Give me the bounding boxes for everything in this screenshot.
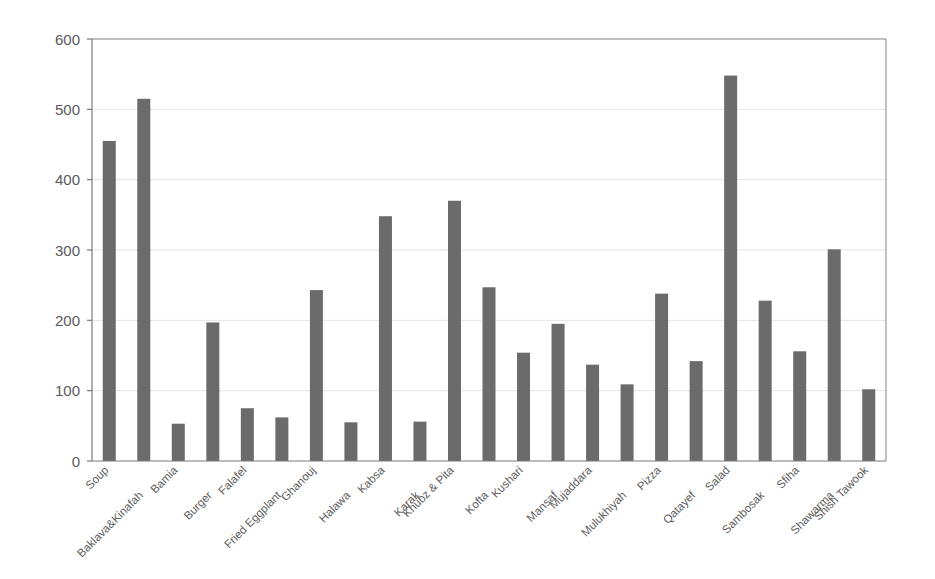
y-axis-tick-label: 300 [55,242,80,259]
y-axis-tick-label: 500 [55,101,80,118]
bar [206,322,219,461]
bar [552,324,565,461]
bar [586,365,599,461]
bar [759,301,772,461]
bar [655,294,668,461]
bar [275,417,288,461]
bar [310,290,323,461]
bar [862,389,875,461]
bar [413,422,426,461]
bar [483,287,496,461]
chart-canvas: 0100200300400500600 SoupBaklava&KinafahB… [0,0,935,579]
y-axis-tick-label: 0 [72,453,80,470]
bar [241,408,254,461]
y-axis-tick-label: 200 [55,312,80,329]
y-axis-tick-label: 600 [55,31,80,48]
bar-chart-figure: 0100200300400500600 SoupBaklava&KinafahB… [0,0,935,579]
bar [103,141,116,461]
bar [621,384,634,461]
bar [379,216,392,461]
bar [448,201,461,461]
bar [137,99,150,461]
y-axis-tick-label: 100 [55,382,80,399]
bar [344,422,357,461]
bar [724,76,737,461]
bar [172,424,185,461]
bar [690,361,703,461]
y-axis-tick-label: 400 [55,171,80,188]
bar [793,351,806,461]
bar [517,353,530,461]
bar [828,249,841,461]
